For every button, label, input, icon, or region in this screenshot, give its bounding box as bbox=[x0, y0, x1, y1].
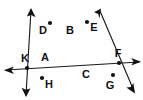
point-g-dot bbox=[111, 73, 115, 77]
point-label-h: H bbox=[45, 78, 53, 90]
point-label-k: K bbox=[21, 52, 29, 64]
point-label-b: B bbox=[66, 24, 74, 36]
labels-group: A B C D E F G H K bbox=[21, 21, 122, 91]
point-label-a: A bbox=[41, 51, 49, 63]
point-k-dot bbox=[25, 66, 29, 70]
point-label-f: F bbox=[115, 47, 122, 59]
point-label-d: D bbox=[39, 24, 47, 36]
line-eg-arrow-up bbox=[94, 9, 101, 19]
point-label-e: E bbox=[90, 21, 97, 33]
point-f-dot bbox=[117, 61, 121, 65]
point-h-dot bbox=[40, 76, 44, 80]
point-e-dot bbox=[85, 20, 89, 24]
geometry-canvas: A B C D E F G H K bbox=[0, 0, 143, 100]
point-label-c: C bbox=[82, 68, 90, 80]
line-kf-arrow-right bbox=[131, 58, 141, 65]
geometry-diagram: A B C D E F G H K bbox=[0, 0, 143, 100]
point-d-dot bbox=[48, 21, 52, 25]
line-kf-arrow-left bbox=[4, 67, 14, 74]
point-label-g: G bbox=[106, 79, 115, 91]
